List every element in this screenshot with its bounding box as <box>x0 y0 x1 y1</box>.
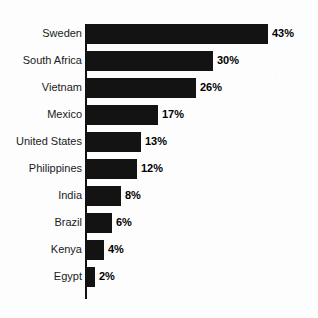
bar-brazil <box>87 213 112 233</box>
bar-value-label: 2% <box>99 270 115 283</box>
bar-philippines <box>87 159 137 179</box>
bar-sweden <box>87 24 268 44</box>
plot-area: Sweden 43% South Africa 30% Vietnam 26% … <box>0 23 318 301</box>
bar-value-label: 6% <box>116 216 132 229</box>
category-label: Philippines <box>0 162 82 175</box>
bar-value-label: 8% <box>125 189 141 202</box>
category-label: United States <box>0 135 82 148</box>
category-label: Mexico <box>0 108 82 121</box>
category-label: Egypt <box>0 270 82 283</box>
bar-row: Philippines 12% <box>0 158 318 185</box>
bar-united-states <box>87 132 141 152</box>
category-label: Sweden <box>0 27 82 40</box>
bar-row: Egypt 2% <box>0 266 318 293</box>
bar-value-label: 4% <box>108 243 124 256</box>
bar-row: Vietnam 26% <box>0 77 318 104</box>
category-label: South Africa <box>0 54 82 67</box>
bar-value-label: 30% <box>217 54 239 67</box>
bar-value-label: 13% <box>145 135 167 148</box>
bar-row: Brazil 6% <box>0 212 318 239</box>
bar-india <box>87 186 121 206</box>
bar-value-label: 26% <box>200 81 222 94</box>
bar-value-label: 17% <box>162 108 184 121</box>
bar-kenya <box>87 240 104 260</box>
category-label: Vietnam <box>0 81 82 94</box>
bar-egypt <box>87 267 95 287</box>
bar-vietnam <box>87 78 196 98</box>
bar-row: United States 13% <box>0 131 318 158</box>
bar-value-label: 43% <box>272 27 294 40</box>
category-label: Kenya <box>0 243 82 256</box>
bar-row: South Africa 30% <box>0 50 318 77</box>
category-label: India <box>0 189 82 202</box>
bar-row: Kenya 4% <box>0 239 318 266</box>
bar-south-africa <box>87 51 213 71</box>
bar-value-label: 12% <box>141 162 163 175</box>
bar-row: Sweden 43% <box>0 23 318 50</box>
bar-row: Mexico 17% <box>0 104 318 131</box>
bar-mexico <box>87 105 158 125</box>
bar-chart: Sweden 43% South Africa 30% Vietnam 26% … <box>0 0 318 318</box>
category-label: Brazil <box>0 216 82 229</box>
bar-row: India 8% <box>0 185 318 212</box>
